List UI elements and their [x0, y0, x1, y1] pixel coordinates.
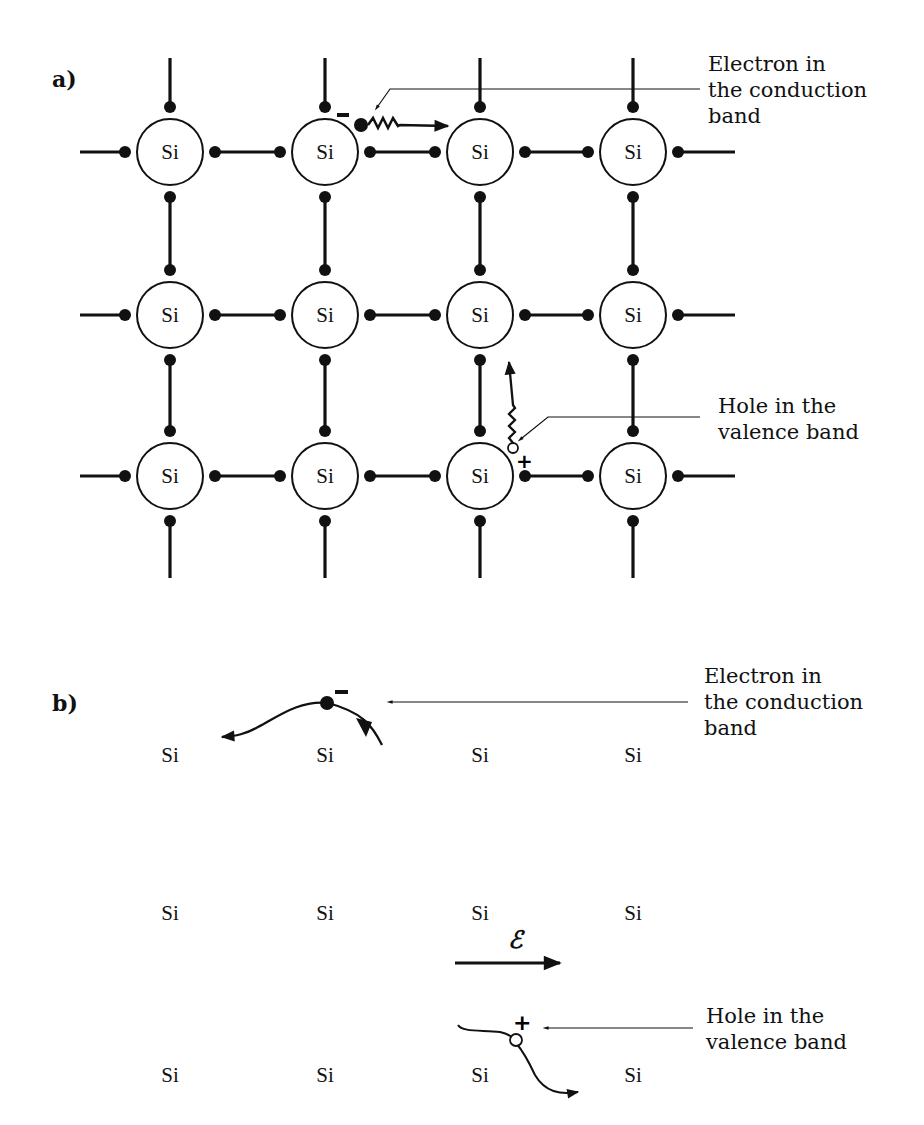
atom-label: Si [624, 464, 642, 488]
atom-label: Si [316, 303, 334, 327]
bond-electron [319, 191, 331, 203]
annotations-part-b: + [222, 690, 693, 1093]
bond-electron [164, 264, 176, 276]
atom-label: Si [471, 743, 489, 767]
bond-electron [319, 101, 331, 113]
hole [510, 1034, 522, 1046]
atom-label: Si [161, 303, 179, 327]
callout-line: the conduction [708, 77, 867, 103]
electron-leader-line [378, 89, 700, 106]
bond-electron [672, 309, 684, 321]
atom-label: Si [161, 140, 179, 164]
atom-label: Si [624, 140, 642, 164]
bond-electron [474, 425, 486, 437]
electron-negative-sign [335, 690, 348, 694]
atom-label: Si [316, 1063, 334, 1087]
bond-electron [627, 425, 639, 437]
bond-electron [429, 309, 441, 321]
atom-label: Si [161, 901, 179, 925]
bond-electron [274, 309, 286, 321]
bond-electron [582, 309, 594, 321]
bond-electron [474, 354, 486, 366]
hole-leader-line [522, 417, 700, 438]
atom-grid-part-b: SiSiSiSiSiSiSiSiSiSiSiSi [161, 743, 642, 1087]
callout-line: valence band [706, 1029, 847, 1055]
electron-trajectory [222, 703, 382, 745]
bond-electron [274, 146, 286, 158]
atom-label: Si [316, 743, 334, 767]
callout-line: Electron in [708, 51, 867, 77]
bond-electron [627, 191, 639, 203]
callout-line: band [708, 103, 867, 129]
electron-incoming-arrowhead [356, 718, 372, 737]
bond-electron [474, 515, 486, 527]
bond-electron [209, 146, 221, 158]
bond-electron [164, 354, 176, 366]
atom-label: Si [316, 140, 334, 164]
callout-line: band [704, 715, 863, 741]
hole-positive-sign: + [516, 449, 533, 473]
bond-electron [519, 309, 531, 321]
bond-electron [672, 146, 684, 158]
bond-electron [164, 191, 176, 203]
bond-electron [319, 515, 331, 527]
bond-electron [474, 264, 486, 276]
hole-callout-a: Hole in thevalence band [718, 393, 859, 445]
atom-label: Si [471, 901, 489, 925]
bond-electron [519, 146, 531, 158]
silicon-lattice-diagram: SiSiSiSiSiSiSiSiSiSiSiSi + SiSiSiSiSiSiS… [0, 0, 924, 1125]
bond-electron [582, 470, 594, 482]
atom-label: Si [471, 1063, 489, 1087]
atom-label: Si [624, 1063, 642, 1087]
hole-callout-b: Hole in thevalence band [706, 1003, 847, 1055]
atom-label: Si [316, 901, 334, 925]
atom-label: Si [471, 303, 489, 327]
bond-electron [364, 146, 376, 158]
atom-label: Si [471, 464, 489, 488]
callout-line: Hole in the [706, 1003, 847, 1029]
bond-electron [429, 470, 441, 482]
bond-electron [582, 146, 594, 158]
bond-electron [627, 515, 639, 527]
bond-lattice-part-a: SiSiSiSiSiSiSiSiSiSiSiSi [80, 58, 735, 578]
bond-electron [429, 146, 441, 158]
electron-callout-a: Electron inthe conductionband [708, 51, 867, 129]
bond-electron [672, 470, 684, 482]
bond-electron [119, 309, 131, 321]
electron-wiggle-arrow [368, 118, 448, 128]
atom-label: Si [161, 464, 179, 488]
part-a-label: a) [52, 66, 77, 92]
atom-label: Si [471, 140, 489, 164]
bond-electron [209, 470, 221, 482]
callout-line: Electron in [704, 663, 863, 689]
hole-wiggle-arrow [509, 362, 515, 443]
atom-label: Si [624, 303, 642, 327]
bond-electron [164, 425, 176, 437]
bond-electron [119, 146, 131, 158]
hole-positive-sign: + [513, 1010, 531, 1035]
bond-electron [627, 264, 639, 276]
atom-label: Si [624, 743, 642, 767]
bond-electron [319, 264, 331, 276]
bond-electron [164, 101, 176, 113]
bond-electron [119, 470, 131, 482]
callout-line: the conduction [704, 689, 863, 715]
bond-electron [209, 309, 221, 321]
bond-electron [474, 101, 486, 113]
bond-electron [474, 191, 486, 203]
atom-label: Si [161, 1063, 179, 1087]
electron-negative-sign [337, 113, 349, 117]
electron-callout-b: Electron inthe conductionband [704, 663, 863, 741]
bond-electron [364, 309, 376, 321]
bond-electron [627, 354, 639, 366]
bond-electron [364, 470, 376, 482]
atom-label: Si [161, 743, 179, 767]
callout-line: Hole in the [718, 393, 859, 419]
atom-label: Si [624, 901, 642, 925]
bond-electron [627, 101, 639, 113]
callout-line: valence band [718, 419, 859, 445]
bond-electron [319, 425, 331, 437]
bond-electron [164, 515, 176, 527]
atom-label: Si [316, 464, 334, 488]
electric-field-symbol: ℰ [508, 925, 523, 954]
